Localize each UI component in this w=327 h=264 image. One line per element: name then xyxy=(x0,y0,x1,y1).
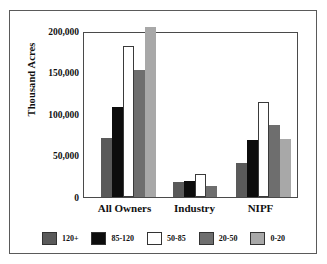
legend-item[interactable]: 120+ xyxy=(42,232,79,245)
legend-item[interactable]: 0-20 xyxy=(250,232,285,245)
legend-label: 85-120 xyxy=(111,234,134,243)
bar xyxy=(236,163,247,197)
chart-figure: Thousand Acres 200,000 150,000 100,000 5… xyxy=(0,0,327,264)
legend-swatch xyxy=(147,232,162,245)
legend-swatch xyxy=(199,232,214,245)
bar-group-all-owners xyxy=(101,31,163,197)
bar xyxy=(206,186,217,197)
legend-item[interactable]: 85-120 xyxy=(91,232,134,245)
bar xyxy=(280,139,291,197)
bar xyxy=(123,46,134,197)
y-tick-label: 100,000 xyxy=(27,110,79,120)
legend-swatch xyxy=(91,232,106,245)
x-tick-label-nipf: NIPF xyxy=(218,202,303,214)
y-tick-label: 50,000 xyxy=(27,151,79,161)
bar xyxy=(145,27,156,197)
bar xyxy=(269,125,280,197)
legend-label: 120+ xyxy=(62,234,79,243)
bar-group-nipf xyxy=(236,31,298,197)
legend-label: 20-50 xyxy=(219,234,238,243)
bar xyxy=(184,181,195,197)
plot-area xyxy=(83,32,298,198)
legend-item[interactable]: 50-85 xyxy=(147,232,186,245)
bar xyxy=(112,107,123,197)
y-tick-label: 150,000 xyxy=(27,68,79,78)
y-tick-label: 0 xyxy=(27,193,79,203)
bar-group-industry xyxy=(173,31,235,197)
chart-legend: 120+85-12050-8520-500-20 xyxy=(20,228,307,248)
y-tick-label: 200,000 xyxy=(27,27,79,37)
legend-swatch xyxy=(42,232,57,245)
bar xyxy=(258,102,269,197)
legend-label: 50-85 xyxy=(167,234,186,243)
legend-item[interactable]: 20-50 xyxy=(199,232,238,245)
bar xyxy=(101,138,112,197)
bar xyxy=(195,174,206,197)
bar-chart: Thousand Acres 200,000 150,000 100,000 5… xyxy=(0,0,327,264)
bar xyxy=(134,70,145,197)
bar xyxy=(247,140,258,197)
legend-label: 0-20 xyxy=(270,234,285,243)
legend-swatch xyxy=(250,232,265,245)
y-axis-tick-labels: 200,000 150,000 100,000 50,000 0 xyxy=(23,32,79,198)
bar xyxy=(173,182,184,197)
